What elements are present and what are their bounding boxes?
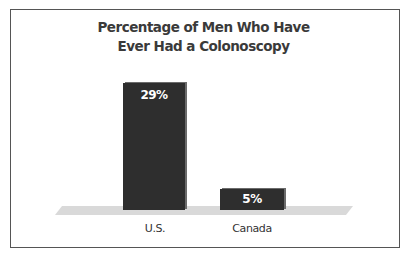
chart-floor: [0, 0, 407, 259]
category-label-us: U.S.: [115, 222, 195, 235]
bar-value-label-canada: 5%: [220, 192, 284, 206]
category-label-canada: Canada: [212, 222, 292, 235]
bar-us: 29%: [123, 83, 185, 210]
bar-value-label-us: 29%: [123, 88, 185, 102]
bar-canada: 5%: [220, 189, 284, 210]
